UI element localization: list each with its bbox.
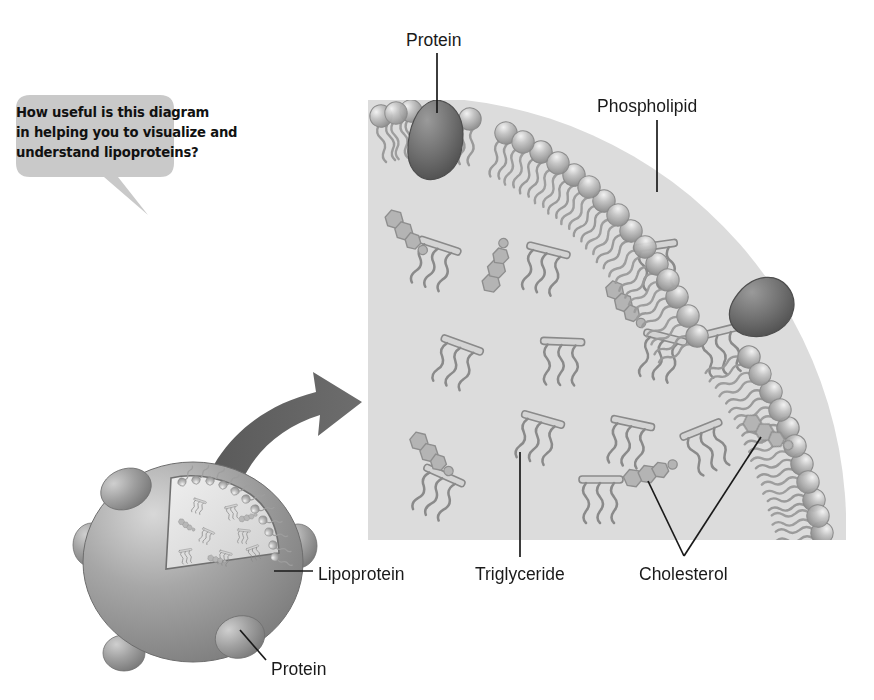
question-line-2: in helping you to visualize and	[16, 123, 174, 143]
label-lipoprotein: Lipoprotein	[318, 564, 405, 585]
question-line-1: How useful is this diagram	[16, 103, 174, 123]
label-protein-top: Protein	[406, 30, 461, 51]
label-cholesterol: Cholesterol	[639, 564, 728, 585]
label-protein-bottom: Protein	[271, 659, 326, 680]
question-line-3: understand lipoproteins?	[16, 143, 174, 163]
figure-canvas: How useful is this diagram in helping yo…	[0, 0, 874, 700]
lipoprotein-sphere	[73, 461, 317, 671]
question-balloon-text: How useful is this diagram in helping yo…	[16, 103, 174, 163]
label-phospholipid: Phospholipid	[597, 96, 697, 117]
magnified-panel	[368, 97, 846, 547]
label-triglyceride: Triglyceride	[475, 564, 565, 585]
